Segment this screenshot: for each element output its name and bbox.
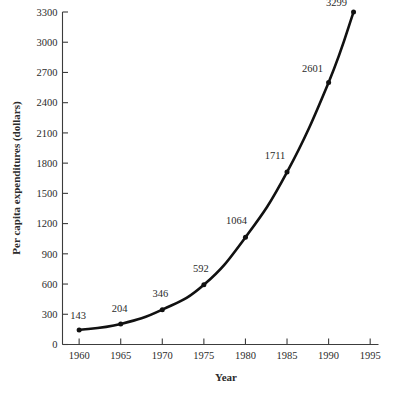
data-point-label-1711: 1711	[265, 150, 286, 161]
y-tick-label-1200: 1200	[37, 218, 58, 229]
y-tick-label-600: 600	[42, 279, 58, 290]
y-tick-label-2700: 2700	[37, 67, 58, 78]
y-tick-label-300: 300	[42, 309, 58, 320]
x-tick-label-1975: 1975	[193, 350, 214, 361]
x-axis-ticks	[79, 339, 370, 345]
data-point-label-592: 592	[193, 263, 209, 274]
x-tick-label-1990: 1990	[318, 350, 339, 361]
x-tick-label-1985: 1985	[277, 350, 298, 361]
y-tick-label-2400: 2400	[37, 97, 58, 108]
x-tick-label-1960: 1960	[69, 350, 90, 361]
data-point-1990	[326, 80, 331, 85]
series-line-per-capita-expenditures	[79, 12, 353, 330]
data-point-label-1064: 1064	[226, 215, 248, 226]
data-point-1993	[351, 10, 356, 15]
line-chart: 0300600900120015001800210024002700300033…	[0, 0, 404, 393]
data-point-label-3299: 3299	[326, 0, 347, 8]
data-point-1965	[118, 321, 123, 326]
y-axis-ticks	[63, 12, 69, 345]
x-axis-title: Year	[215, 371, 237, 383]
data-point-label-2601: 2601	[302, 63, 323, 74]
data-point-label-346: 346	[152, 288, 168, 299]
data-series-group	[77, 10, 356, 333]
data-point-1980	[243, 235, 248, 240]
chart-container: 0300600900120015001800210024002700300033…	[0, 0, 404, 393]
series-markers	[77, 10, 356, 333]
data-point-1975	[201, 282, 206, 287]
y-axis-title: Per capita expenditures (dollars)	[10, 101, 23, 255]
data-point-1985	[285, 170, 290, 175]
data-point-label-143: 143	[70, 310, 86, 321]
chart-axes	[63, 12, 379, 345]
data-point-labels: 1432043465921064171126013299	[70, 0, 347, 321]
x-tick-label-1965: 1965	[110, 350, 131, 361]
y-tick-label-3300: 3300	[37, 7, 58, 18]
y-tick-label-900: 900	[42, 249, 58, 260]
y-tick-label-0: 0	[52, 339, 57, 350]
y-tick-label-1800: 1800	[37, 158, 58, 169]
data-point-1960	[77, 328, 82, 333]
x-tick-label-1970: 1970	[152, 350, 173, 361]
y-axis-tick-labels: 0300600900120015001800210024002700300033…	[37, 7, 58, 351]
x-tick-label-1980: 1980	[235, 350, 256, 361]
x-tick-label-1995: 1995	[360, 350, 381, 361]
y-tick-label-1500: 1500	[37, 188, 58, 199]
data-point-label-204: 204	[112, 303, 129, 314]
data-point-1970	[160, 307, 165, 312]
x-axis-tick-labels: 19601965197019751980198519901995	[69, 350, 381, 361]
y-tick-label-2100: 2100	[37, 128, 58, 139]
y-tick-label-3000: 3000	[37, 37, 58, 48]
